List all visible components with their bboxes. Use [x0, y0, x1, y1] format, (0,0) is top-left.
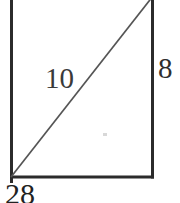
diagram-canvas: 10 8 28: [0, 0, 180, 203]
triangle-hypotenuse-line: [11, 0, 153, 177]
base-label: 28: [5, 179, 35, 203]
triangle-rectangle-figure: [0, 0, 180, 203]
hypotenuse-label: 10: [45, 64, 74, 93]
scan-speck: [103, 133, 107, 136]
vertical-side-label: 8: [158, 54, 173, 83]
